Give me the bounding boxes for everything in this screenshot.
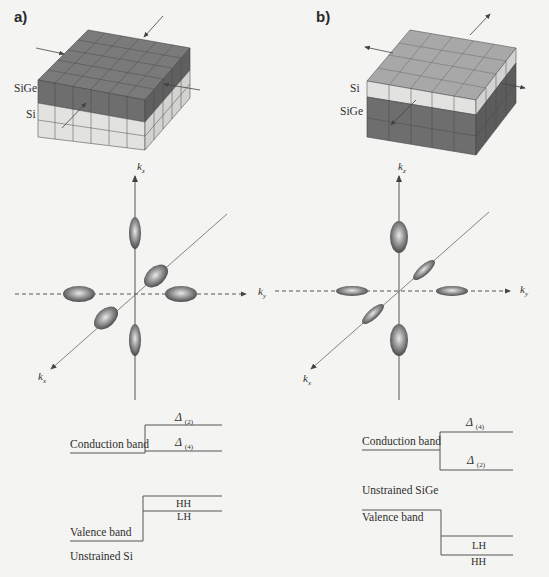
kspace-b xyxy=(275,176,510,400)
cube-b xyxy=(365,14,525,155)
valence-band-label-a: Valence band xyxy=(70,526,132,538)
axis-kx-b: kx xyxy=(303,372,311,387)
kspace-a xyxy=(15,176,246,400)
hh-label-a: HH xyxy=(176,498,191,509)
axis-ky-a: ky xyxy=(258,285,266,300)
delta-4-label-b: Δ (4) xyxy=(466,415,484,431)
delta-4-label-a: Δ (4) xyxy=(175,435,193,451)
delta-2-label-a: Δ (2) xyxy=(175,410,193,426)
axis-kz-b: kz xyxy=(398,160,406,175)
axis-kx-a: kx xyxy=(38,370,46,385)
figure-graphics xyxy=(0,0,549,577)
axis-ky-b: ky xyxy=(520,283,528,298)
layer-label-si-b: Si xyxy=(350,82,360,94)
layer-label-sige-b: SiGe xyxy=(340,105,363,117)
panel-b-label: b) xyxy=(316,8,330,25)
hh-label-b: HH xyxy=(471,556,486,567)
axis-kz-a: kz xyxy=(137,160,145,175)
layer-label-sige-a: SiGe xyxy=(14,82,37,94)
reference-label-a: Unstrained Si xyxy=(70,550,133,562)
valence-band-label-b: Valence band xyxy=(362,511,424,523)
delta-2-label-b: Δ (2) xyxy=(467,453,485,469)
lh-label-b: LH xyxy=(472,540,486,551)
cube-a xyxy=(36,16,200,150)
panel-a-label: a) xyxy=(14,8,27,25)
layer-label-si-a: Si xyxy=(26,108,36,120)
conduction-band-label-b: Conduction band xyxy=(362,435,441,447)
lh-label-a: LH xyxy=(177,511,191,522)
conduction-band-label-a: Conduction band xyxy=(70,438,149,450)
figure: a) SiGe Si kz ky kx Δ (2) Conduction ban… xyxy=(0,0,549,577)
reference-label-b: Unstrained SiGe xyxy=(362,484,438,496)
